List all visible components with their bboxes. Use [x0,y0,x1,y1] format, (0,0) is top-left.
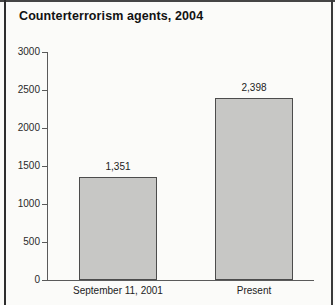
y-tick-mark [42,280,47,281]
y-tick-label: 500 [8,237,40,247]
y-tick-label: 1000 [8,199,40,209]
y-tick-mark [42,128,47,129]
y-axis-line [47,52,48,280]
bar-value-label: 1,351 [68,162,168,172]
bar [79,177,157,280]
y-tick-label: 2000 [8,123,40,133]
x-axis-line [47,280,314,281]
bar-value-label: 2,398 [204,83,304,93]
y-tick-mark [42,90,47,91]
x-category-label: September 11, 2001 [48,285,188,296]
y-tick-label: 3000 [8,47,40,57]
y-tick-label: 2500 [8,85,40,95]
x-category-label: Present [184,285,324,296]
y-tick-mark [42,204,47,205]
y-tick-label: 0 [8,275,40,285]
bar-chart: 0500100015002000250030001,351September 1… [0,0,335,305]
y-tick-label: 1500 [8,161,40,171]
y-tick-mark [42,52,47,53]
y-tick-mark [42,166,47,167]
bar [215,98,293,280]
y-tick-mark [42,242,47,243]
